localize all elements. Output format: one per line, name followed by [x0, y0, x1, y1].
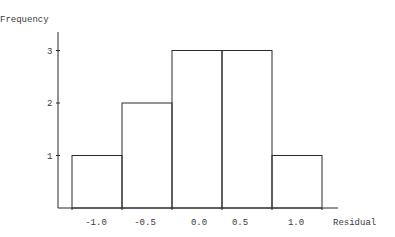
x-tick-label: -0.5	[134, 218, 156, 228]
y-axis-label: Frequency	[0, 15, 49, 25]
histogram-bar	[222, 51, 272, 209]
x-tick-label: 1.0	[288, 218, 304, 228]
x-tick-labels: -1.0-0.50.00.51.0	[72, 208, 322, 228]
y-tick-label: 3	[47, 47, 52, 57]
x-tick-label: 0.0	[191, 218, 207, 228]
x-tick-label: 0.5	[232, 218, 248, 228]
histogram-bar	[272, 156, 322, 209]
histogram-chart: Frequency 123 -1.0-0.50.00.51.0 Residual	[0, 0, 395, 237]
y-tick-label: 2	[47, 99, 52, 109]
histogram-bars	[72, 51, 322, 209]
histogram-bar	[172, 51, 222, 209]
histogram-bar	[72, 156, 122, 209]
y-tick-label: 1	[47, 152, 52, 162]
x-tick-label: -1.0	[85, 218, 107, 228]
x-axis-label: Residual	[333, 218, 376, 228]
histogram-bar	[122, 103, 172, 208]
